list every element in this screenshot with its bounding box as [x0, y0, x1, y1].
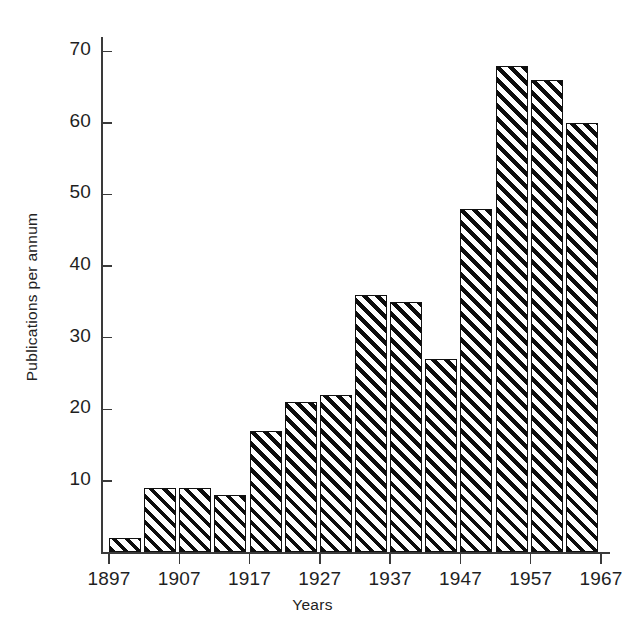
- bar: [144, 488, 176, 552]
- bar: [390, 302, 422, 553]
- bar: [250, 431, 282, 553]
- x-tick-label: 1897: [69, 568, 149, 590]
- x-tick-label: 1947: [420, 568, 500, 590]
- bar: [320, 395, 352, 552]
- bar: [109, 538, 141, 552]
- bar: [496, 66, 528, 553]
- bar: [214, 495, 246, 552]
- bar: [355, 295, 387, 553]
- x-tick-mark: [530, 553, 531, 564]
- bar-chart-figure: Publications per annum 10203040506070 18…: [0, 0, 625, 632]
- x-tick-label: 1917: [210, 568, 290, 590]
- x-tick-mark: [249, 553, 250, 564]
- y-tick-label: 40: [47, 253, 91, 275]
- y-tick-label: 20: [47, 396, 91, 418]
- x-tick-mark: [108, 553, 109, 564]
- x-tick-mark: [460, 553, 461, 564]
- bar: [566, 123, 598, 553]
- y-tick-label: 60: [47, 110, 91, 132]
- y-tick-label: 10: [47, 468, 91, 490]
- x-tick-label: 1927: [280, 568, 360, 590]
- x-tick-label: 1957: [491, 568, 571, 590]
- x-axis-line: [101, 552, 610, 554]
- bar: [531, 80, 563, 552]
- y-axis-title: Publications per annum: [23, 187, 41, 407]
- x-axis-title: Years: [0, 596, 625, 614]
- plot-area: 10203040506070 1897190719171927193719471…: [101, 30, 610, 554]
- bar: [425, 359, 457, 552]
- x-tick-mark: [600, 553, 601, 564]
- y-tick-label: 70: [47, 38, 91, 60]
- x-tick-mark: [389, 553, 390, 564]
- bar: [460, 209, 492, 553]
- x-tick-label: 1967: [561, 568, 625, 590]
- bar: [179, 488, 211, 552]
- bar: [285, 402, 317, 552]
- x-tick-mark: [179, 553, 180, 564]
- x-tick-label: 1937: [350, 568, 430, 590]
- x-tick-mark: [319, 553, 320, 564]
- x-tick-label: 1907: [139, 568, 219, 590]
- bar-series: [102, 30, 610, 552]
- y-tick-label: 30: [47, 325, 91, 347]
- y-tick-label: 50: [47, 181, 91, 203]
